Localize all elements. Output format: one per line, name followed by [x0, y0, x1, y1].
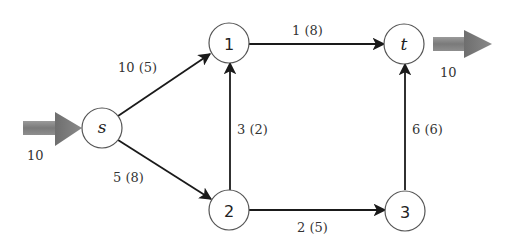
node-label-s: s	[98, 117, 107, 137]
node-label-3: 3	[400, 203, 410, 222]
edge-label-s-1: 10 (5)	[118, 60, 157, 75]
node-label-2: 2	[224, 202, 234, 221]
edge-label-2-1: 3 (2)	[237, 122, 268, 137]
edge-label-1-t: 1 (8)	[292, 23, 323, 38]
node-2: 2	[209, 190, 249, 230]
sink-outflow-arrow-icon	[433, 30, 492, 58]
node-1: 1	[209, 23, 249, 63]
flow-network-diagram: 10 10 10 (5) 5 (8) 3 (2) 1 (8) 2 (5) 6 (…	[0, 0, 517, 249]
source-inflow-label: 10	[27, 148, 44, 163]
node-t: t	[384, 24, 424, 64]
sink-outflow-label: 10	[440, 65, 457, 80]
node-3: 3	[385, 191, 425, 231]
source-inflow-arrow-icon	[23, 112, 82, 146]
node-s: s	[82, 108, 122, 148]
edge-label-s-2: 5 (8)	[113, 170, 144, 185]
node-label-t: t	[401, 34, 408, 54]
edge-label-3-t: 6 (6)	[412, 122, 443, 137]
edge-label-2-3: 2 (5)	[297, 220, 328, 235]
node-label-1: 1	[224, 35, 234, 54]
